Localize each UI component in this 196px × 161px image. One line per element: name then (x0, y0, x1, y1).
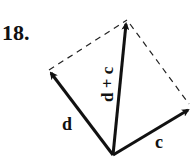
label-c: c (155, 132, 163, 152)
vector-c-arrow (113, 110, 188, 155)
dashed-line-sum-to-c (130, 24, 189, 104)
label-sum: d + c (98, 66, 117, 102)
dashed-line-d-to-sum (49, 20, 127, 70)
vector-diagram: d c d + c (0, 0, 196, 161)
label-d: d (62, 114, 72, 134)
